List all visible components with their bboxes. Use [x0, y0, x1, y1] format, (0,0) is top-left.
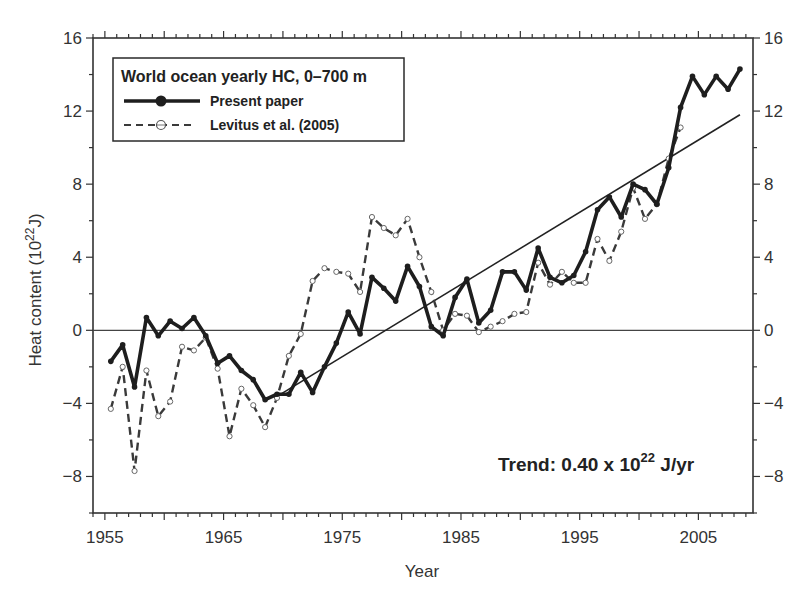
- present-paper-marker: [132, 384, 138, 390]
- levitus-marker: [500, 319, 505, 324]
- y-tick-label-left: 8: [73, 175, 82, 194]
- present-paper-marker: [737, 66, 743, 72]
- y-tick-label-left: −4: [63, 394, 82, 413]
- levitus-marker: [369, 214, 374, 219]
- levitus-marker: [583, 280, 588, 285]
- present-paper-marker: [571, 273, 577, 279]
- present-paper-marker: [607, 194, 613, 200]
- levitus-marker: [346, 271, 351, 276]
- levitus-marker: [464, 313, 469, 318]
- levitus-marker: [512, 311, 517, 316]
- y-tick-label-right: 4: [764, 248, 773, 267]
- present-paper-marker: [702, 92, 708, 98]
- present-paper-marker: [725, 86, 731, 92]
- levitus-marker: [322, 266, 327, 271]
- present-paper-marker: [547, 275, 553, 281]
- legend-title: World ocean yearly HC, 0–700 m: [121, 68, 367, 85]
- levitus-marker: [191, 348, 196, 353]
- legend-present-label: Present paper: [210, 93, 304, 109]
- present-paper-marker: [227, 353, 233, 359]
- levitus-marker: [452, 311, 457, 316]
- levitus-marker: [239, 386, 244, 391]
- present-paper-marker: [429, 324, 435, 330]
- levitus-marker: [357, 289, 362, 294]
- present-paper-marker: [488, 307, 494, 313]
- present-paper-marker: [618, 214, 624, 220]
- x-tick-label: 1975: [323, 528, 361, 547]
- levitus-marker: [417, 255, 422, 260]
- present-paper-marker: [678, 105, 684, 111]
- levitus-marker: [381, 225, 386, 230]
- present-paper-marker: [381, 285, 387, 291]
- present-paper-marker: [322, 364, 328, 370]
- present-paper-marker: [500, 269, 506, 275]
- present-paper-marker: [357, 331, 363, 337]
- levitus-marker: [144, 368, 149, 373]
- present-paper-marker: [310, 390, 316, 396]
- x-tick-label: 2005: [679, 528, 717, 547]
- levitus-marker: [571, 280, 576, 285]
- present-paper-marker: [286, 391, 292, 397]
- present-paper-marker: [250, 377, 256, 383]
- y-tick-label-left: 4: [73, 248, 82, 267]
- present-paper-marker: [262, 397, 268, 403]
- y-tick-label-right: −4: [764, 394, 783, 413]
- y-axis-title: Heat content (1022J): [23, 213, 45, 366]
- levitus-marker: [179, 344, 184, 349]
- levitus-marker: [286, 353, 291, 358]
- present-paper-marker: [713, 74, 719, 80]
- y-tick-label-left: −8: [63, 467, 82, 486]
- present-paper-marker: [179, 326, 185, 332]
- levitus-marker: [607, 258, 612, 263]
- present-paper-marker: [559, 280, 565, 286]
- chart: 195519651975198519952005−8−8−4−400448812…: [0, 0, 812, 594]
- present-paper-marker: [144, 315, 150, 321]
- levitus-marker: [619, 229, 624, 234]
- levitus-marker: [476, 330, 481, 335]
- present-paper-marker: [393, 298, 399, 304]
- y-tick-label-right: 0: [764, 321, 773, 340]
- y-tick-label-left: 12: [63, 102, 82, 121]
- present-paper-marker: [155, 333, 161, 339]
- present-paper-marker: [595, 207, 601, 213]
- levitus-marker: [642, 216, 647, 221]
- levitus-marker: [405, 216, 410, 221]
- present-paper-marker: [191, 315, 197, 321]
- y-tick-label-right: 12: [764, 102, 783, 121]
- present-paper-marker: [690, 74, 696, 80]
- levitus-marker: [120, 364, 125, 369]
- present-paper-marker: [654, 201, 660, 207]
- present-paper-marker: [167, 318, 173, 324]
- levitus-marker: [429, 289, 434, 294]
- levitus-marker: [310, 278, 315, 283]
- levitus-marker: [524, 309, 529, 314]
- x-tick-label: 1965: [205, 528, 243, 547]
- present-paper-marker: [345, 309, 351, 315]
- present-paper-marker: [512, 269, 518, 275]
- levitus-marker: [393, 233, 398, 238]
- y-tick-label-left: 16: [63, 29, 82, 48]
- levitus-marker: [215, 366, 220, 371]
- present-paper-marker: [452, 295, 458, 301]
- present-paper-marker: [440, 333, 446, 339]
- levitus-marker: [334, 269, 339, 274]
- present-paper-marker: [464, 276, 470, 282]
- present-paper-marker: [298, 370, 304, 376]
- present-paper-marker: [369, 275, 375, 281]
- y-tick-label-right: −8: [764, 467, 783, 486]
- present-paper-marker: [203, 333, 209, 339]
- present-paper-marker: [535, 245, 541, 251]
- x-tick-label: 1985: [442, 528, 480, 547]
- x-tick-label: 1995: [561, 528, 599, 547]
- legend: World ocean yearly HC, 0–700 m Present p…: [113, 58, 404, 141]
- x-axis-title: Year: [405, 562, 440, 581]
- present-paper-marker: [239, 368, 245, 374]
- present-paper-marker: [405, 264, 411, 270]
- present-paper-marker: [120, 342, 126, 348]
- levitus-marker: [132, 468, 137, 473]
- trend-annotation: Trend: 0.40 x 1022 J/yr: [498, 450, 695, 475]
- levitus-marker: [547, 282, 552, 287]
- levitus-marker: [227, 434, 232, 439]
- x-tick-label: 1955: [86, 528, 124, 547]
- present-paper-marker: [630, 181, 636, 187]
